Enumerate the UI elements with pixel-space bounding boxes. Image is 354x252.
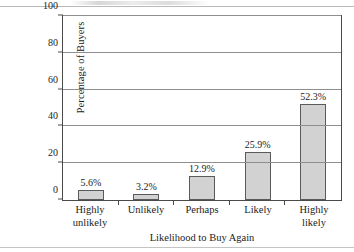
bar-value-label: 5.6% (80, 177, 101, 188)
gridline (63, 15, 341, 16)
x-axis-category-label-line: Unlikely (118, 204, 174, 217)
bar[interactable]: 12.9% (189, 176, 215, 200)
bar-slot: 52.3% (285, 16, 341, 200)
bar[interactable]: 3.2% (133, 194, 159, 200)
x-axis-category-label-line: likely (286, 217, 342, 230)
bar-value-label: 12.9% (189, 163, 215, 174)
x-axis-category-label: Perhaps (174, 204, 230, 229)
plot-area: Percentage of Buyers 020406080100 5.6%3.… (62, 15, 342, 201)
scan-artifact-clipped-text (70, 1, 210, 5)
bar-series: 5.6%3.2%12.9%25.9%52.3% (63, 16, 341, 200)
y-axis-tick-label: 80 (48, 36, 58, 47)
x-axis-category-label: Likely (230, 204, 286, 229)
gridline (63, 52, 341, 53)
bar-value-label: 52.3% (300, 91, 326, 102)
x-axis-category-label-line: Likely (230, 204, 286, 217)
x-axis-tick-labels: HighlyunlikelyUnlikelyPerhapsLikelyHighl… (62, 204, 342, 229)
x-axis-category-label-line: unlikely (62, 217, 118, 230)
x-axis-category-label: Highlylikely (286, 204, 342, 229)
x-axis-title: Likelihood to Buy Again (62, 232, 342, 243)
bar-slot: 25.9% (230, 16, 286, 200)
bar[interactable]: 5.6% (78, 190, 104, 200)
y-axis-tick-label: 100 (43, 0, 58, 11)
bar-value-label: 3.2% (136, 181, 157, 192)
x-axis-category-label: Highlyunlikely (62, 204, 118, 229)
gridline (63, 89, 341, 90)
scan-artifact-bottom-rule (0, 247, 354, 248)
bar-chart-figure: Percentage of Buyers 020406080100 5.6%3.… (0, 0, 354, 252)
gridline (63, 162, 341, 163)
y-axis-tick-label: 40 (48, 110, 58, 121)
y-axis-tick-label: 0 (53, 184, 58, 195)
bar[interactable]: 52.3% (300, 104, 326, 200)
x-axis-category-label-line: Highly (286, 204, 342, 217)
bar[interactable]: 25.9% (245, 152, 271, 200)
bar-value-label: 25.9% (245, 139, 271, 150)
y-axis-tick-label: 20 (48, 147, 58, 158)
gridline (63, 125, 341, 126)
x-axis-category-label: Unlikely (118, 204, 174, 229)
bar-slot: 3.2% (119, 16, 175, 200)
y-axis-tick-label: 60 (48, 73, 58, 84)
x-axis-category-label-line: Highly (62, 204, 118, 217)
x-axis-category-label-line: Perhaps (174, 204, 230, 217)
bar-slot: 12.9% (174, 16, 230, 200)
bar-slot: 5.6% (63, 16, 119, 200)
